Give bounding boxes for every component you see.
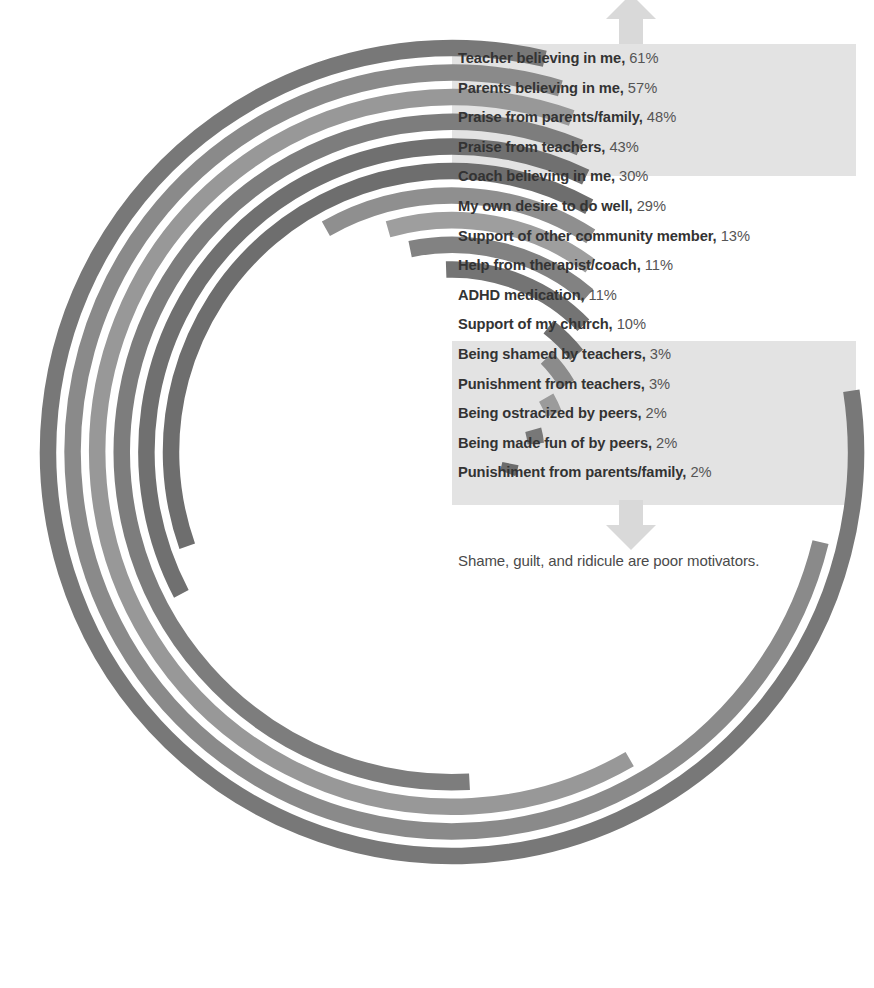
legend-row: Being made fun of by peers, 2% <box>458 429 874 459</box>
legend-row-value: 11% <box>585 287 617 303</box>
legend-row-label: Being made fun of by peers, <box>458 435 652 451</box>
legend-row: Coach believing in me, 30% <box>458 162 874 192</box>
legend-row: My own desire to do well, 29% <box>458 192 874 222</box>
legend-row-label: Being shamed by teachers, <box>458 346 646 362</box>
legend-row-label: Praise from parents/family, <box>458 109 643 125</box>
legend-row-value: 2% <box>642 405 667 421</box>
legend-row: Support of my church, 10% <box>458 310 874 340</box>
legend-row: Punishment from teachers, 3% <box>458 370 874 400</box>
legend-list: Teacher believing in me, 61%Parents beli… <box>458 44 874 488</box>
legend-row-value: 57% <box>624 80 657 96</box>
legend-row-label: Praise from teachers, <box>458 139 605 155</box>
legend-row-label: My own desire to do well, <box>458 198 633 214</box>
legend-row: Punishiment from parents/family, 2% <box>458 458 874 488</box>
legend-row-value: 30% <box>615 168 648 184</box>
legend-row-value: 3% <box>646 346 671 362</box>
legend-row: Being ostracized by peers, 2% <box>458 399 874 429</box>
legend-row-value: 61% <box>625 50 658 66</box>
legend-row: Teacher believing in me, 61% <box>458 44 874 74</box>
arrow-down-icon <box>600 500 662 552</box>
legend-row: Help from therapist/coach, 11% <box>458 251 874 281</box>
legend-row: ADHD medication, 11% <box>458 281 874 311</box>
arrow-up-icon <box>600 0 662 44</box>
legend-row-value: 13% <box>717 228 750 244</box>
legend-row-value: 29% <box>633 198 666 214</box>
legend-row-value: 48% <box>643 109 676 125</box>
radial-bar-chart: Teacher believing in me, 61%Parents beli… <box>0 0 874 988</box>
legend-row-label: Punishment from teachers, <box>458 376 645 392</box>
legend-row: Being shamed by teachers, 3% <box>458 340 874 370</box>
legend-row: Support of other community member, 13% <box>458 222 874 252</box>
legend-row-label: Parents believing in me, <box>458 80 624 96</box>
legend-row-value: 10% <box>613 316 646 332</box>
legend-row-label: Punishiment from parents/family, <box>458 464 686 480</box>
legend-row-label: Coach believing in me, <box>458 168 615 184</box>
legend-row-value: 3% <box>645 376 670 392</box>
legend-row-value: 43% <box>605 139 638 155</box>
legend-row-value: 2% <box>686 464 711 480</box>
legend-row-value: 11% <box>641 257 673 273</box>
legend-row-label: Help from therapist/coach, <box>458 257 641 273</box>
legend-row-label: Teacher believing in me, <box>458 50 625 66</box>
legend-row-label: Support of other community member, <box>458 228 717 244</box>
legend-row-label: Being ostracized by peers, <box>458 405 642 421</box>
legend-row: Praise from parents/family, 48% <box>458 103 874 133</box>
legend-row: Praise from teachers, 43% <box>458 133 874 163</box>
legend-row: Parents believing in me, 57% <box>458 74 874 104</box>
legend-row-label: ADHD medication, <box>458 287 585 303</box>
legend-row-label: Support of my church, <box>458 316 613 332</box>
chart-caption: Shame, guilt, and ridicule are poor moti… <box>458 552 874 569</box>
legend-row-value: 2% <box>652 435 677 451</box>
